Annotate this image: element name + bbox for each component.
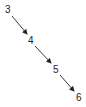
node-5: 5 [53,65,59,75]
edge-3-4 [12,16,27,34]
edge-4-5 [35,46,51,63]
edge-5-6 [60,75,74,91]
node-4: 4 [28,36,34,46]
node-6: 6 [76,93,82,103]
node-3: 3 [5,5,11,15]
edges-layer [0,0,86,107]
